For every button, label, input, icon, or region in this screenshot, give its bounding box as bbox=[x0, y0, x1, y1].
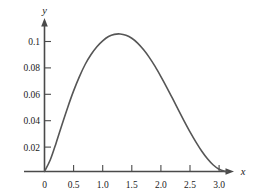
y-tick-marks bbox=[45, 42, 52, 148]
x-tick-label-1: 0.5 bbox=[68, 180, 80, 190]
y-tick-label-2: 0.06 bbox=[23, 90, 40, 100]
x-tick-marks bbox=[74, 165, 220, 172]
x-axis-label: x bbox=[240, 166, 246, 177]
x-tick-label-6: 3.0 bbox=[213, 180, 225, 190]
y-tick-label-3: 0.08 bbox=[23, 63, 40, 73]
y-tick-label-4: 0.1 bbox=[28, 37, 40, 47]
x-tick-label-2: 1.0 bbox=[97, 180, 109, 190]
x-axis-group bbox=[24, 168, 234, 175]
y-axis-label: y bbox=[41, 5, 47, 16]
y-tick-label-1: 0.04 bbox=[23, 116, 40, 126]
plot-canvas: 0.02 0.04 0.06 0.08 0.1 0 0.5 1.0 1.5 2.… bbox=[0, 0, 256, 196]
x-tick-label-3: 1.5 bbox=[126, 180, 138, 190]
x-tick-label-5: 2.5 bbox=[184, 180, 196, 190]
x-tick-label-4: 2.0 bbox=[155, 180, 167, 190]
y-axis-arrow-icon bbox=[41, 18, 48, 27]
x-tick-label-origin: 0 bbox=[42, 180, 47, 190]
chart-figure: 0.02 0.04 0.06 0.08 0.1 0 0.5 1.0 1.5 2.… bbox=[0, 0, 256, 196]
data-curve bbox=[45, 34, 228, 172]
y-tick-label-0: 0.02 bbox=[23, 143, 40, 153]
